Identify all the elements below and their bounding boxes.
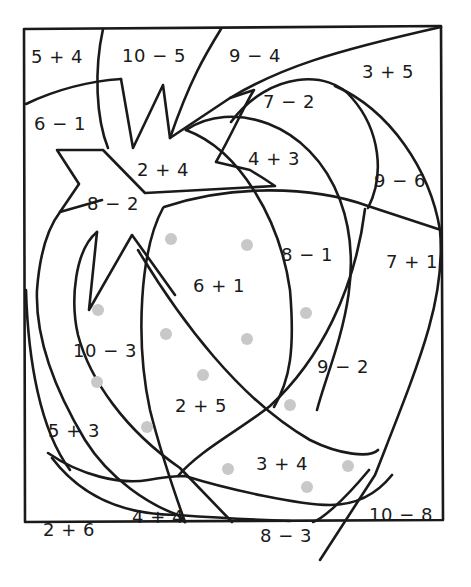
region-label-r18[interactable]: 3 + 4 bbox=[256, 453, 308, 474]
seed-dot bbox=[301, 481, 313, 493]
seed-dot bbox=[165, 233, 177, 245]
seed-dots bbox=[91, 233, 354, 493]
curve-outer-right bbox=[320, 86, 441, 560]
region-label-r21[interactable]: 2 + 6 bbox=[43, 519, 95, 540]
curve-berry-top bbox=[164, 190, 441, 230]
region-label-r8[interactable]: 4 + 3 bbox=[248, 148, 300, 169]
seed-dot bbox=[241, 239, 253, 251]
region-label-r7[interactable]: 2 + 4 bbox=[137, 159, 189, 180]
curve-2-6-left bbox=[26, 290, 70, 470]
region-label-r12[interactable]: 7 + 1 bbox=[386, 251, 438, 272]
region-label-r3[interactable]: 9 − 4 bbox=[229, 45, 281, 66]
leaf-lower bbox=[37, 212, 185, 522]
seed-dot bbox=[342, 460, 354, 472]
region-label-r17[interactable]: 5 + 3 bbox=[48, 420, 100, 441]
region-label-r20[interactable]: 4 + 4 bbox=[132, 506, 184, 527]
region-label-r15[interactable]: 9 − 2 bbox=[317, 356, 369, 377]
curve-6-1-right bbox=[186, 130, 292, 407]
curve-top-left-band bbox=[26, 79, 121, 104]
seed-dot bbox=[197, 369, 209, 381]
curve-diagonal-cross bbox=[138, 250, 378, 454]
region-label-r2[interactable]: 10 − 5 bbox=[122, 45, 186, 66]
seed-dot bbox=[300, 307, 312, 319]
region-label-r13[interactable]: 6 + 1 bbox=[193, 275, 245, 296]
seed-dot bbox=[92, 304, 104, 316]
region-label-r4[interactable]: 3 + 5 bbox=[362, 61, 414, 82]
region-label-r5[interactable]: 6 − 1 bbox=[34, 113, 86, 134]
seed-dot bbox=[284, 399, 296, 411]
region-label-r6[interactable]: 7 − 2 bbox=[263, 91, 315, 112]
seed-dot bbox=[91, 376, 103, 388]
region-label-r14[interactable]: 10 − 3 bbox=[73, 340, 137, 361]
region-label-r11[interactable]: 8 − 1 bbox=[281, 244, 333, 265]
region-label-r19[interactable]: 10 − 8 bbox=[369, 504, 433, 525]
seed-dot bbox=[141, 421, 153, 433]
seed-dot bbox=[160, 328, 172, 340]
seed-dot bbox=[222, 463, 234, 475]
coloring-worksheet: 5 + 410 − 59 − 43 + 56 − 17 − 22 + 44 + … bbox=[0, 0, 471, 587]
seed-dot bbox=[241, 333, 253, 345]
leaf-spike bbox=[89, 232, 175, 310]
region-label-r9[interactable]: 9 − 6 bbox=[374, 170, 426, 191]
curve-stem-left bbox=[97, 29, 108, 148]
region-label-r10[interactable]: 8 − 2 bbox=[87, 193, 139, 214]
region-label-r16[interactable]: 2 + 5 bbox=[175, 395, 227, 416]
region-label-r1[interactable]: 5 + 4 bbox=[31, 46, 83, 67]
region-label-r22[interactable]: 8 − 3 bbox=[260, 525, 312, 546]
